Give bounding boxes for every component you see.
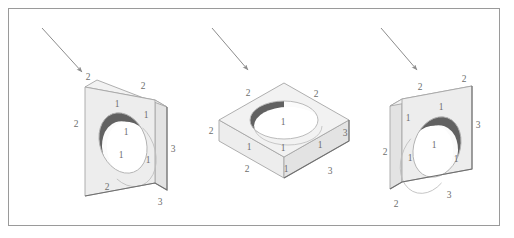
object-3-label-7: 1 [432,140,437,150]
object-2-label-4: 1 [247,142,252,152]
object-1-label-1: 2 [141,81,146,91]
view-direction-arrow-2 [212,28,248,70]
object-1-label-5: 1 [124,127,129,137]
object-3-label-6: 1 [408,153,413,163]
object-2-label-7: 2 [245,164,250,174]
object-1-label-7: 1 [146,155,151,165]
object-2-label-10: 3 [328,166,333,176]
object-2-label-0: 2 [246,88,251,98]
object-2-label-1: 2 [314,89,319,99]
object-1-side-face [155,100,167,190]
object-1-label-6: 1 [119,150,124,160]
object-2-label-9: 3 [343,128,348,138]
object-3-label-4: 3 [476,120,481,130]
object-1-block-upright-hole-left: 2 2 1 1 2 1 1 1 3 2 3 [42,28,176,207]
object-2-block-flat-hole-top: 2 2 1 2 1 1 1 2 1 3 3 [209,28,349,178]
object-1-label-4: 2 [74,119,79,129]
figure-canvas: 2 2 1 1 2 1 1 1 3 2 3 [0,0,514,238]
object-1-label-10: 3 [158,197,163,207]
object-2-label-8: 1 [284,164,289,174]
object-3-label-5: 2 [383,147,388,157]
object-2-label-6: 1 [318,140,323,150]
object-3-label-2: 1 [439,102,444,112]
object-3-label-0: 2 [418,82,423,92]
view-direction-arrow-1 [42,28,82,72]
object-2-label-3: 2 [209,126,214,136]
object-1-label-8: 3 [171,144,176,154]
isometric-block-diagram: 2 2 1 1 2 1 1 1 3 2 3 [0,0,514,238]
object-2-label-5: 1 [281,143,286,153]
object-2-label-2: 1 [281,117,286,127]
object-1-label-3: 1 [144,110,149,120]
object-3-label-8: 1 [454,154,459,164]
view-direction-arrow-3 [381,28,417,70]
object-1-label-0: 2 [86,72,91,82]
object-3-label-9: 3 [447,190,452,200]
object-3-label-3: 1 [406,113,411,123]
object-3-side-face [390,99,402,189]
object-1-label-2: 1 [115,99,120,109]
object-1-label-9: 2 [105,182,110,192]
object-3-label-1: 2 [462,74,467,84]
object-3-label-10: 2 [394,199,399,209]
object-3-block-upright-hole-right: 2 2 1 1 3 2 1 1 1 3 2 [381,28,481,209]
